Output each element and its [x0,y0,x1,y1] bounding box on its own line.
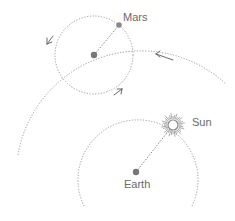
epicycle-radius-line [94,25,119,55]
sun-ray [161,126,167,127]
sun-ray [171,113,172,119]
arrow-epicycle-bottom-icon [114,89,122,95]
arrow-deferent-icon [156,51,173,60]
sun-ray [179,123,185,124]
arrow-epicycle-left-icon [47,36,53,44]
deferent-orbit [18,51,226,155]
sun-radius-line [136,129,170,172]
sun-icon [161,113,185,137]
sun-ray [171,131,172,135]
earth-label: Earth [124,178,150,190]
sun-ray [174,115,175,119]
mars-label: Mars [123,11,148,23]
sun-label: Sun [192,116,212,128]
epicycle-diagram: Mars Sun Earth [0,0,235,221]
sun-ray [174,131,175,137]
sun-ray [163,123,167,124]
earth-dot [133,169,139,175]
sun-ray [179,126,183,127]
mars-dot [116,22,122,28]
epicycle-center-dot [91,52,97,58]
